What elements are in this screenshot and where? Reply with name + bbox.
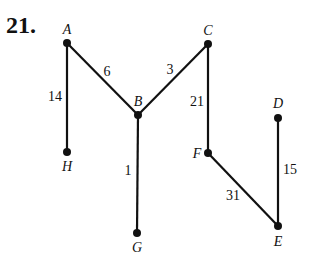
edge-b-g [137, 115, 138, 233]
edge-weight-d-e: 15 [283, 162, 297, 177]
edge-weight-f-e: 31 [226, 188, 240, 203]
node-g-vertex-icon [133, 229, 141, 237]
node-label-a: A [62, 22, 72, 37]
weighted-graph: 14631213115 ABCDHGFE [0, 0, 310, 257]
edge-a-b [67, 43, 138, 115]
node-label-h: H [61, 159, 73, 174]
node-labels: ABCDHGFE [61, 22, 283, 255]
node-label-f: F [192, 146, 202, 161]
node-label-b: B [134, 94, 143, 109]
edge-weight-a-b: 6 [104, 64, 111, 79]
node-e-vertex-icon [274, 222, 282, 230]
node-label-e: E [273, 234, 283, 249]
edge-weight-b-g: 1 [125, 163, 132, 178]
node-d-vertex-icon [274, 114, 282, 122]
node-label-c: C [203, 23, 213, 38]
node-a-vertex-icon [63, 39, 71, 47]
edge-f-e [208, 153, 278, 226]
node-c-vertex-icon [204, 40, 212, 48]
edge-weight-c-f: 21 [190, 94, 204, 109]
node-label-g: G [132, 240, 142, 255]
edge-weight-a-h: 14 [48, 89, 62, 104]
node-b-vertex-icon [134, 111, 142, 119]
node-h-vertex-icon [63, 148, 71, 156]
node-f-vertex-icon [204, 149, 212, 157]
node-label-d: D [272, 96, 283, 111]
edge-weight-b-c: 3 [167, 62, 174, 77]
edge-weights: 14631213115 [48, 62, 297, 203]
